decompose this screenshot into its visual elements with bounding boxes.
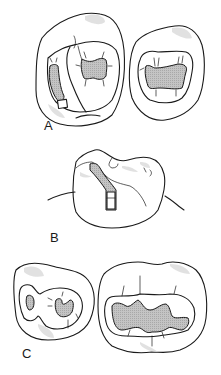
- panel-a-groove-step: [57, 99, 67, 108]
- dental-illustration: A B: [0, 0, 221, 375]
- panel-b-gingiva-left: [48, 192, 75, 200]
- panel-c-left-mesial-preparation: [26, 295, 34, 310]
- panel-label-c: C: [22, 346, 31, 361]
- panel-a-right-occlusal-preparation: [145, 64, 186, 89]
- panel-label-b: B: [50, 230, 59, 245]
- panel-label-a: A: [44, 118, 53, 133]
- panel-c: C: [14, 262, 207, 361]
- panel-a: A: [36, 13, 204, 133]
- panel-b-tooth: [73, 150, 165, 228]
- panel-c-right-occlusal-preparation: [112, 300, 189, 333]
- panel-a-left-occlusal-preparation: [81, 59, 107, 80]
- panel-b-gingiva-right: [165, 196, 184, 210]
- panel-c-left-tooth: [14, 263, 95, 340]
- panel-a-groove-preparation: [49, 65, 64, 103]
- panel-c-left-distal-preparation: [55, 299, 73, 317]
- panel-a-left-tooth: [36, 13, 125, 126]
- panel-b: B: [48, 150, 184, 245]
- panel-c-right-tooth: [98, 262, 207, 353]
- panel-b-groove-step: [107, 192, 115, 209]
- panel-a-right-tooth: [129, 26, 204, 121]
